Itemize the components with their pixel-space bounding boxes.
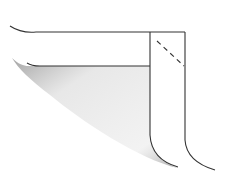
outer-vertical	[185, 32, 215, 170]
shadow-region	[12, 58, 178, 168]
middle-edge	[27, 63, 150, 66]
hidden-edge-dashed	[157, 41, 184, 66]
inner-vertical	[150, 32, 178, 167]
top-edge	[10, 26, 185, 32]
bracket-diagram	[0, 0, 231, 179]
